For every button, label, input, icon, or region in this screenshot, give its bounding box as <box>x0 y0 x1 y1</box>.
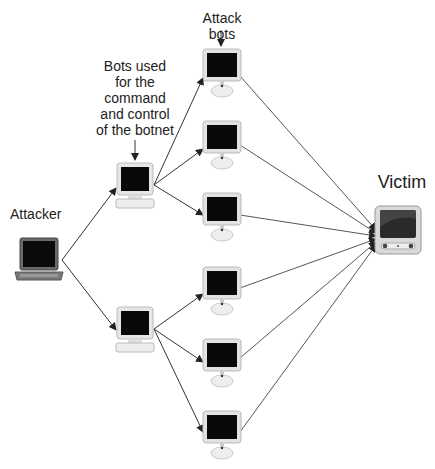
command-control-bot-2-icon <box>114 306 156 354</box>
attack-bot-5-icon <box>201 338 243 388</box>
attack-bot-1-icon <box>201 48 243 98</box>
cc-label-line: and control <box>90 106 180 122</box>
victim-label: Victim <box>370 172 434 192</box>
command-control-bot-1-icon <box>114 162 156 210</box>
attack-bot-4-icon <box>201 266 243 316</box>
cc-label-line: command <box>90 90 180 106</box>
attack-bot-3-icon <box>201 192 243 242</box>
cc-label-line: of the botnet <box>90 122 180 138</box>
attacker-laptop-icon <box>14 236 64 284</box>
cc-label-line: for the <box>90 74 180 90</box>
attack-bot-2-icon <box>201 120 243 170</box>
attack-bot-6-icon <box>201 410 243 460</box>
victim-computer-icon <box>374 205 422 255</box>
attacker-label: Attacker <box>10 206 60 222</box>
command-control-label: Bots used for the command and control of… <box>90 58 180 138</box>
cc-label-line: Bots used <box>90 58 180 74</box>
attack-bots-label: Attack bots <box>190 10 254 42</box>
